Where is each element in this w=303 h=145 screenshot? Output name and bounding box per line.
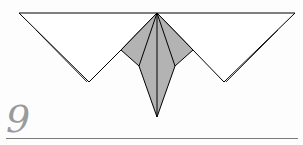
diagram-canvas: 9 xyxy=(0,0,303,145)
origami-figure xyxy=(0,0,303,145)
step-number: 9 xyxy=(6,100,30,138)
divider-rule xyxy=(6,138,298,139)
